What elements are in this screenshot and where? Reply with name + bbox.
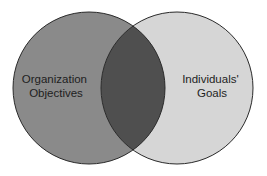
venn-diagram: Organization Objectives Individuals' Goa… xyxy=(0,0,267,176)
